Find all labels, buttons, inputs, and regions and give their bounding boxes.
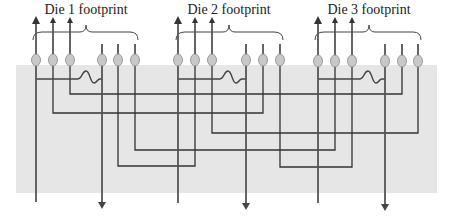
die-footprint-diagram [0,0,455,217]
down-arrow-icon [381,204,389,211]
bond-pad-icon [381,55,390,67]
up-arrow-icon [174,16,182,24]
up-arrow-icon [32,16,40,24]
bond-pad-icon [98,54,107,66]
die-2-footprint-label: Die 2 footprint [187,2,270,18]
bond-pad-icon [208,54,217,66]
bond-pad-icon [276,54,285,66]
brace-die-2 [176,25,283,40]
die-1-footprint-label: Die 1 footprint [44,2,127,18]
bond-pad-icon [191,54,200,66]
bond-pad-icon [414,55,423,67]
bond-pad-icon [131,54,140,66]
bond-pad-icon [174,54,183,66]
bond-pad-icon [331,55,340,67]
up-arrow-icon [314,16,322,24]
bond-pad-icon [259,54,268,66]
down-arrow-icon [98,202,106,209]
bond-pad-icon [314,55,323,67]
bond-pad-icon [242,54,251,66]
down-arrow-icons [98,202,389,211]
brace-die-3 [315,25,421,40]
bond-pad-icon [49,54,58,66]
bond-pad-icon [348,55,357,67]
bond-pad-icon [66,54,75,66]
bond-pad-icon [32,54,41,66]
die-3-footprint-label: Die 3 footprint [327,2,410,18]
bond-pad-icon [114,54,123,66]
bond-pad-icon [398,55,407,67]
down-arrow-icon [242,203,250,210]
brace-die-1 [33,25,138,40]
substrate-band [16,65,437,193]
